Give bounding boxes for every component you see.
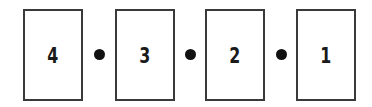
box-3: 3: [115, 9, 175, 101]
box-label: 2: [229, 45, 240, 67]
box-2: 2: [205, 9, 265, 101]
box-label: 1: [320, 45, 331, 67]
box-label: 3: [139, 45, 150, 67]
box-1: 1: [296, 9, 356, 101]
dot-separator-icon: [276, 49, 287, 60]
box-4: 4: [23, 9, 83, 101]
dot-separator-icon: [185, 49, 196, 60]
box-label: 4: [47, 45, 58, 67]
dot-separator-icon: [94, 49, 105, 60]
